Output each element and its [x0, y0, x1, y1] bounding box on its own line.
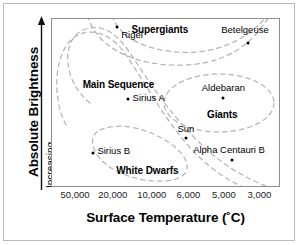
hr-diagram-figure: Absolute Brightness Increasing Supergian…	[0, 0, 299, 245]
x-tick-0: 50,000	[61, 189, 90, 200]
x-axis-title: Surface Temperature (˚C)	[51, 210, 280, 225]
star-label-sun: Sun	[177, 123, 194, 134]
stellar-region-outlines	[52, 19, 279, 186]
star-point-sun	[184, 137, 187, 140]
plot-area: Supergiants Main Sequence Giants White D…	[51, 18, 280, 187]
region-label-giants: Giants	[207, 109, 238, 120]
star-point-rigel	[116, 25, 119, 28]
star-label-betelgeuse: Betelgeuse	[221, 24, 269, 35]
star-point-alpha-centauri-b	[231, 159, 234, 162]
star-point-betelgeuse	[247, 41, 250, 44]
region-label-white-dwarfs: White Dwarfs	[116, 165, 178, 176]
x-tick-3: 6,000	[177, 189, 201, 200]
star-label-sirius-a: Sirius A	[133, 92, 165, 103]
x-tick-2: 10,000	[137, 189, 166, 200]
x-tick-4: 5,000	[212, 189, 236, 200]
star-point-sirius-b	[91, 151, 94, 154]
star-label-sirius-b: Sirius B	[97, 145, 130, 156]
x-tick-1: 20,000	[98, 189, 127, 200]
x-tick-5: 3,000	[247, 189, 271, 200]
star-label-aldebaran: Aldebaran	[202, 82, 245, 93]
star-point-sirius-a	[127, 98, 130, 101]
star-point-aldebaran	[222, 97, 225, 100]
x-axis-tick-labels: 50,000 20,000 10,000 6,000 5,000 3,000	[51, 189, 280, 205]
region-label-main-sequence: Main Sequence	[83, 79, 155, 90]
y-axis-title: Absolute Brightness	[26, 47, 41, 177]
star-label-alpha-centauri-b: Alpha Centauri B	[193, 144, 265, 155]
star-label-rigel: Rigel	[121, 29, 143, 40]
